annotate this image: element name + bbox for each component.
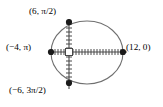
point-label-top: (6, π/2) [29,7,56,16]
point-label-bottom: (−6, 3π/2) [9,86,46,95]
data-point-bottom [66,80,72,86]
data-point-top [66,19,72,25]
polar-circle-figure: (6, π/2) (−4, π) (12, 0) (−6, 3π/2) [0,0,163,107]
point-label-right: (12, 0) [126,43,151,52]
data-point-left [48,49,54,55]
origin-marker [66,49,73,56]
point-label-left: (−4, π) [6,43,31,52]
